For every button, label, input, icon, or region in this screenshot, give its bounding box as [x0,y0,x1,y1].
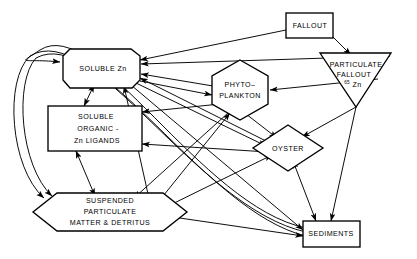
node-sediments[interactable] [303,221,360,247]
node-particulate-fallout[interactable] [320,53,391,107]
edge-soluble-organic-suspended-particulate [76,151,95,196]
edge-particulate-fallout-to-oyster [302,107,356,137]
edge-suspended-particulate-to-oyster [160,155,272,210]
node-fallout[interactable] [286,13,333,38]
node-phytoplankton[interactable] [212,60,268,120]
edge-suspended-particulate-to-sediments [166,216,303,236]
node-soluble-zn[interactable] [63,49,140,88]
node-oyster[interactable] [253,125,323,171]
zn65-cycling-diagram: FALLOUT PARTICULATE FALLOUT 65 Zn SOLUBL… [0,0,417,259]
node-suspended-particulate-matter-detritus[interactable] [33,193,187,231]
edge-particulate-fallout-to-sediments [331,107,356,221]
edge-oyster-sediments [293,161,316,221]
edge-fallout-to-soluble-zn [140,30,286,60]
edge-phytoplankton-to-oyster [246,114,277,138]
edge-fallout-to-particulate-fallout [332,36,351,55]
diagram-canvas: FALLOUT PARTICULATE FALLOUT 65 Zn SOLUBL… [0,0,417,259]
node-soluble-organic-zn-ligands[interactable] [48,106,142,151]
node-layer [33,13,391,247]
edge-oyster-to-soluble-organic [142,144,268,152]
